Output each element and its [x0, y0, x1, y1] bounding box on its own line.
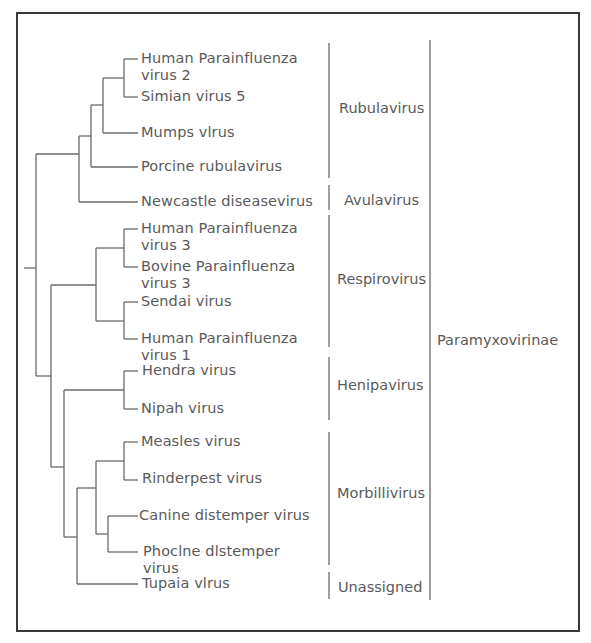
genus-label-rubulavirus: Rubulavirus	[339, 100, 424, 117]
taxon-label-hpiv2: Human Parainfluenzavirus 2	[141, 50, 298, 84]
subfamily-label: Paramyxovirinae	[437, 332, 558, 349]
taxon-label-pdv: Phoclne dlstempervirus	[143, 543, 280, 577]
taxon-label-hpiv3: Human Parainfluenzavirus 3	[141, 220, 298, 254]
taxon-label-ndv: Newcastle diseasevirus	[141, 193, 313, 210]
genus-label-henipavirus: Henipavirus	[337, 377, 423, 394]
genus-label-morbillivirus: Morbillivirus	[337, 485, 425, 502]
taxon-label-cdv: Canine distemper virus	[139, 507, 310, 524]
taxon-label-bpiv3: Bovine Parainfluenzavirus 3	[141, 258, 295, 292]
taxon-label-hpiv1: Human Parainfluenzavirus 1	[141, 330, 298, 364]
taxon-label-porcine: Porcine rubulavirus	[141, 158, 282, 175]
taxon-label-sv5: Simian virus 5	[141, 88, 246, 105]
taxon-label-mumps: Mumps vlrus	[141, 124, 235, 141]
genus-label-respirovirus: Respirovirus	[337, 271, 426, 288]
genus-label-avulavirus: Avulavirus	[344, 192, 419, 209]
taxon-label-nipah: Nipah virus	[141, 400, 224, 417]
genus-label-unassigned: Unassigned	[338, 579, 422, 596]
taxon-label-sendai: Sendai virus	[141, 293, 232, 310]
tree-branches	[24, 59, 138, 584]
taxon-label-rinderpest: Rinderpest virus	[142, 470, 262, 487]
phylogenetic-tree	[0, 0, 591, 643]
taxon-label-tupaia: Tupaia vlrus	[142, 575, 230, 592]
taxon-label-hendra: Hendra virus	[142, 362, 236, 379]
taxon-label-measles: Measles virus	[141, 433, 241, 450]
